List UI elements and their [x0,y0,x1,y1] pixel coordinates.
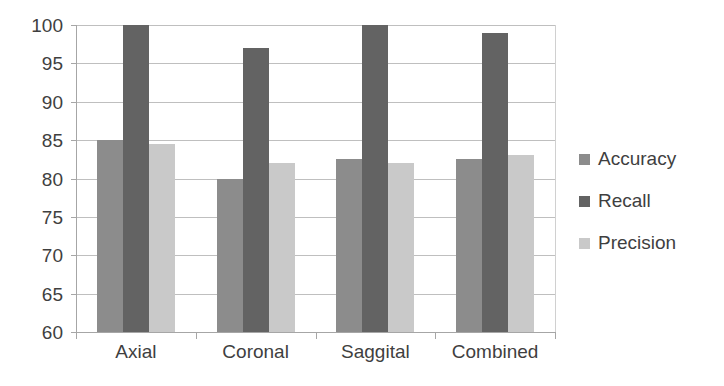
bar-precision-combined [508,155,534,332]
legend-swatch-accuracy [579,154,590,165]
y-axis-tick-label: 100 [0,16,63,35]
bar-accuracy-coronal [217,179,243,333]
bar-recall-combined [482,33,508,332]
bar-recall-saggital [362,25,388,332]
y-axis-tick-label: 60 [0,323,63,342]
x-axis-label-axial: Axial [76,341,196,363]
plot-right-border [555,25,556,333]
bars-layer [76,25,555,332]
x-axis-group-separator [316,332,317,339]
bar-chart: 1009590858075706560 AxialCoronalSaggital… [0,0,724,386]
x-axis-group-separator [435,332,436,339]
bar-accuracy-axial [97,140,123,332]
legend-label-precision: Precision [598,232,676,254]
y-axis-tick-label: 80 [0,170,63,189]
bar-recall-axial [123,25,149,332]
legend-label-accuracy: Accuracy [598,148,676,170]
legend-swatch-recall [579,196,590,207]
legend-swatch-precision [579,238,590,249]
y-axis-tick-label: 95 [0,54,63,73]
y-axis-tick-label: 90 [0,93,63,112]
bar-accuracy-combined [456,159,482,332]
bar-precision-saggital [388,163,414,332]
x-axis-group-separator [196,332,197,339]
bar-precision-coronal [269,163,295,332]
y-axis-tick-label: 70 [0,246,63,265]
x-axis-label-saggital: Saggital [316,341,436,363]
bar-precision-axial [149,144,175,332]
x-axis-edge-tick [555,332,556,339]
legend-label-recall: Recall [598,190,651,212]
y-axis-tick-label: 75 [0,208,63,227]
x-axis-label-combined: Combined [435,341,555,363]
bar-accuracy-saggital [336,159,362,332]
x-axis-edge-tick [76,332,77,339]
y-axis-tick-label: 65 [0,285,63,304]
y-axis-tick-label: 85 [0,131,63,150]
x-axis-label-coronal: Coronal [196,341,316,363]
bar-recall-coronal [243,48,269,332]
